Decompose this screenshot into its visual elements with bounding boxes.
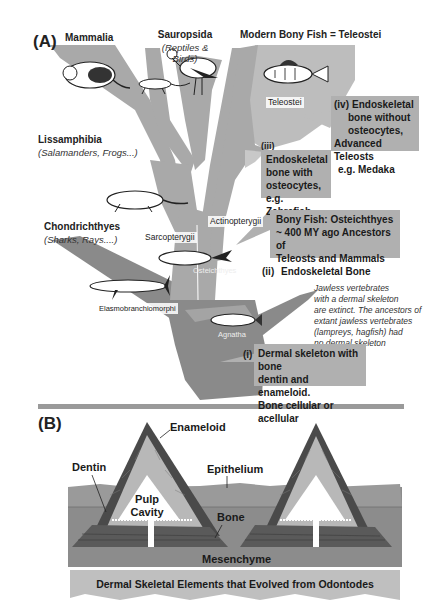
callout-i: Dermal skeleton with bone dentin and ena…: [254, 344, 366, 386]
jawless-note-line-1: with a dermal skeleton: [314, 294, 421, 305]
jawless-note-line-0: Jawless vertebrates: [314, 283, 421, 294]
callout-iii-line-0: Endoskeletal: [266, 153, 326, 166]
clade-chondrichthyes-subtitle: (Sharks, Rays....): [44, 234, 120, 246]
clade-lissamphibia-title: Lissamphibia: [38, 134, 138, 147]
callout-iii-line-1: bone with: [266, 166, 326, 179]
clade-sauropsida: Sauropsida (Reptiles & Birds): [150, 29, 220, 65]
clade-lissamphibia-subtitle: (Salamanders, Frogs...): [38, 147, 138, 159]
label-bone: Bone: [217, 511, 245, 524]
jawless-note-line-4: (lampreys, hagfish) had: [314, 327, 421, 338]
label-pulp-cavity: Pulp Cavity: [125, 493, 169, 519]
label-dentin: Dentin: [72, 461, 106, 474]
label-cavity: Cavity: [125, 506, 169, 519]
clade-chondrichthyes: Chondrichthyes (Sharks, Rays....): [44, 221, 120, 245]
tag-teleostei: Teleostei: [266, 97, 304, 108]
tag-elasmobranchiomorphi: Elasmobranchiomorphi: [97, 303, 178, 314]
callout-i-line-1: dentin and enameloid.: [258, 373, 362, 399]
label-mesenchyme: Mesenchyme: [202, 553, 271, 566]
tag-sarcopterygii: Sarcopterygii: [143, 232, 197, 243]
callout-iv-numeral: (iv): [334, 98, 349, 111]
jawless-note-line-2: are extinct. The ancestors of: [314, 305, 421, 316]
clade-sauropsida-title: Sauropsida: [150, 29, 220, 42]
label-pulp: Pulp: [125, 493, 169, 506]
callout-iv-line-2: osteocytes,: [334, 124, 416, 137]
callout-ii-line-3: Teleosts and Mammals: [276, 252, 394, 265]
callout-iii: Endoskeletal bone with osteocytes, e.g. …: [261, 150, 331, 198]
label-epithelium: Epithelium: [207, 463, 263, 476]
panel-a-label: (A): [33, 32, 57, 52]
label-enameloid: Enameloid: [170, 421, 226, 434]
callout-iv-line-3: Advanced Teleosts: [334, 137, 416, 163]
panel-b-label: (B): [38, 414, 62, 434]
clade-lissamphibia: Lissamphibia (Salamanders, Frogs...): [38, 134, 138, 158]
callout-ii-numeral: (ii): [262, 266, 274, 277]
callout-ii-line-4: Endoskeletal Bone: [281, 266, 370, 277]
clade-mammalia: Mammalia: [65, 32, 113, 45]
callout-iv-line-1: bone without: [334, 111, 416, 124]
tag-agnatha: Agnatha: [218, 330, 246, 339]
callout-i-line-2: Bone cellular or acellular: [258, 399, 362, 425]
clade-teleostei-header: Modern Bony Fish = Teleostei: [240, 29, 381, 42]
callout-iv: (iv) Endoskeletal bone without osteocyte…: [331, 96, 419, 151]
callout-ii-line-2: ~ 400 MY ago Ancestors of: [276, 226, 394, 252]
callout-iii-line-2: osteocytes,: [266, 179, 326, 192]
banner-odontodes: Dermal Skeletal Elements that Evolved fr…: [70, 578, 400, 591]
clade-sauropsida-subtitle: (Reptiles & Birds): [150, 42, 220, 66]
tag-osteichthyes: Osteichthyes: [193, 266, 236, 275]
callout-i-numeral: (i): [243, 349, 252, 360]
jawless-vertebrates-note: Jawless vertebrates with a dermal skelet…: [314, 283, 421, 349]
clade-chondrichthyes-title: Chondrichthyes: [44, 221, 120, 234]
jawless-note-line-3: extant jawless vertebrates: [314, 316, 421, 327]
callout-iv-line-0: Endoskeletal: [352, 98, 414, 111]
callout-ii-line-1: Bony Fish: Osteichthyes: [276, 213, 394, 226]
callout-iv-line-4: e.g. Medaka: [334, 163, 416, 176]
callout-ii: Bony Fish: Osteichthyes ~ 400 MY ago Anc…: [270, 210, 400, 258]
tag-actinopterygii: Actinopterygii: [208, 216, 263, 227]
callout-i-line-0: Dermal skeleton with bone: [258, 347, 362, 373]
